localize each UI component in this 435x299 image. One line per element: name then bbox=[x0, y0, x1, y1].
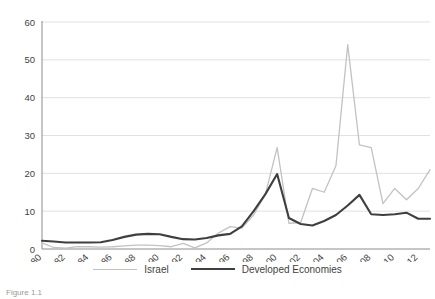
chart-legend: Israel Developed Economies bbox=[0, 258, 435, 280]
legend-swatch-israel bbox=[93, 269, 137, 270]
chart-plot-area: 0102030405060198019821984198619881990199… bbox=[0, 0, 435, 262]
legend-item-israel: Israel bbox=[93, 264, 168, 275]
line-chart: 0102030405060198019821984198619881990199… bbox=[0, 0, 435, 262]
y-axis-tick-label: 60 bbox=[24, 17, 35, 28]
y-axis-tick-label: 30 bbox=[24, 130, 35, 141]
series-line-israel bbox=[42, 45, 430, 249]
figure-caption: Figure 1.1 bbox=[6, 288, 42, 299]
legend-item-developed-economies: Developed Economies bbox=[191, 264, 342, 275]
legend-label-developed-economies: Developed Economies bbox=[242, 264, 342, 275]
figure-container: 0102030405060198019821984198619881990199… bbox=[0, 0, 435, 299]
legend-label-israel: Israel bbox=[144, 264, 168, 275]
y-axis-tick-label: 10 bbox=[24, 206, 35, 217]
series-line-developed-economies bbox=[42, 174, 430, 242]
y-axis-tick-label: 40 bbox=[24, 92, 35, 103]
y-axis-tick-label: 50 bbox=[24, 54, 35, 65]
legend-swatch-developed-economies bbox=[191, 268, 235, 270]
y-axis-tick-label: 20 bbox=[24, 168, 35, 179]
